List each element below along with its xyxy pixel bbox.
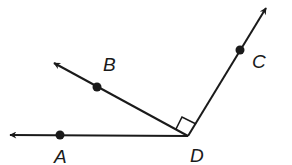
ray-da — [10, 135, 188, 136]
point-a — [56, 131, 65, 140]
label-b: B — [103, 54, 116, 75]
ray-dc — [188, 8, 266, 136]
point-b — [93, 83, 102, 92]
angle-diagram: A B C D — [0, 0, 292, 165]
point-c — [236, 46, 245, 55]
ray-db — [54, 63, 188, 136]
label-d: D — [190, 145, 204, 165]
label-a: A — [53, 146, 67, 165]
label-c: C — [252, 51, 266, 72]
